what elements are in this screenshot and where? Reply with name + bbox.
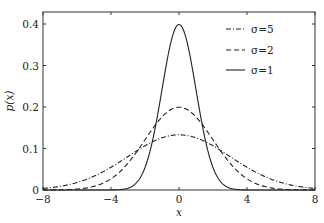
curve-dashed xyxy=(43,107,315,190)
plot-curves xyxy=(43,24,315,190)
x-tick-label: −4 xyxy=(103,193,119,205)
x-axis: −8−4048 xyxy=(35,12,318,205)
y-tick-label: 0.3 xyxy=(22,60,39,72)
y-tick-label: 0.4 xyxy=(22,18,39,30)
y-tick-label: 0.1 xyxy=(22,143,39,155)
gaussian-chart: −8−4048 00.10.20.30.4 x p(x) σ=5σ=2σ=1 xyxy=(0,0,324,223)
curve-dashdot xyxy=(43,135,315,189)
legend-label: σ=2 xyxy=(251,44,274,56)
x-tick-label: 4 xyxy=(244,193,251,205)
x-axis-label: x xyxy=(176,206,182,218)
legend-label: σ=5 xyxy=(251,23,274,35)
x-tick-label: 8 xyxy=(312,193,319,205)
legend-label: σ=1 xyxy=(251,64,274,76)
y-axis-label: p(x) xyxy=(3,91,15,112)
y-tick-label: 0 xyxy=(32,184,39,196)
y-tick-label: 0.2 xyxy=(22,101,39,113)
plot-frame xyxy=(43,12,315,190)
legend: σ=5σ=2σ=1 xyxy=(226,23,274,76)
x-tick-label: 0 xyxy=(176,193,183,205)
